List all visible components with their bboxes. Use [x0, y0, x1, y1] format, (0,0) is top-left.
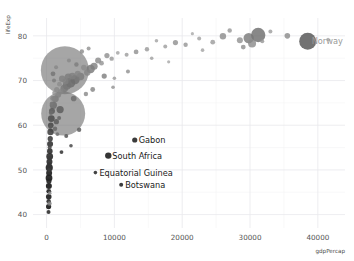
data-point [47, 156, 51, 160]
data-point [227, 28, 231, 32]
data-point [80, 49, 84, 53]
x-tick-label: 20000 [171, 233, 194, 242]
data-point [113, 77, 117, 81]
data-point [46, 183, 52, 189]
data-point [56, 132, 60, 136]
y-tick-label: 60 [18, 121, 28, 130]
data-point [53, 127, 57, 131]
data-point [50, 96, 55, 101]
data-point [119, 183, 123, 187]
y-tick-label: 70 [18, 76, 28, 85]
data-point [60, 150, 64, 154]
data-point [51, 71, 56, 76]
x-axis-title: gdpPercap [316, 248, 346, 255]
data-point [87, 46, 91, 50]
y-tick-label: 50 [18, 166, 28, 175]
data-point [111, 85, 115, 89]
data-point [48, 137, 52, 141]
data-point [69, 73, 76, 80]
data-point [57, 116, 61, 120]
data-point [105, 152, 111, 158]
y-tick-label: 80 [18, 32, 28, 41]
scatter-chart-figure: GabonSouth AfricaEquatorial GuineaBotswa… [0, 0, 354, 261]
data-point [71, 96, 77, 102]
data-point [90, 63, 97, 70]
data-point [69, 144, 73, 148]
data-point [50, 102, 54, 106]
data-point [63, 78, 69, 84]
data-point [134, 50, 139, 55]
data-point [67, 58, 71, 62]
point-annotation: South Africa [112, 151, 162, 161]
data-point [47, 201, 51, 205]
data-point [54, 65, 58, 69]
data-point [48, 125, 52, 129]
data-point [125, 53, 129, 57]
data-point [116, 51, 120, 55]
data-point [84, 69, 90, 75]
data-point [52, 79, 56, 83]
x-tick-label: 10000 [103, 233, 126, 242]
data-point [260, 39, 264, 43]
data-point [183, 43, 187, 47]
data-point [47, 210, 51, 214]
data-point [109, 56, 113, 60]
data-point [220, 33, 226, 39]
data-point [248, 39, 256, 47]
data-point [47, 162, 52, 167]
data-point [94, 171, 98, 175]
data-point [167, 60, 170, 63]
data-point [102, 73, 107, 78]
data-point [197, 37, 201, 41]
data-point [126, 70, 130, 74]
point-annotation: Norway [312, 36, 343, 46]
data-point [48, 146, 52, 150]
data-point [285, 33, 291, 39]
x-tick-label: 0 [44, 233, 49, 242]
data-point [90, 87, 95, 92]
data-point [201, 48, 205, 52]
x-tick-label: 30000 [239, 233, 262, 242]
data-point [77, 128, 81, 132]
point-annotation: Equatorial Guinea [99, 168, 172, 178]
data-point [57, 82, 62, 87]
data-point [47, 129, 53, 135]
data-point [84, 92, 88, 96]
data-point [74, 62, 78, 66]
data-point [104, 53, 109, 58]
y-axis-title: lifeExp [5, 15, 12, 34]
scatter-plot-svg: GabonSouth AfricaEquatorial GuineaBotswa… [0, 0, 354, 261]
point-annotation: Gabon [139, 135, 166, 145]
data-point [268, 29, 272, 33]
data-point [163, 45, 167, 49]
point-annotation: Botswana [125, 180, 165, 190]
data-point [210, 40, 215, 45]
data-point [57, 106, 64, 113]
data-point [48, 191, 52, 195]
data-point [191, 32, 194, 35]
data-point [64, 134, 68, 138]
data-point [237, 37, 243, 43]
data-point [132, 137, 137, 142]
data-point [48, 115, 55, 122]
data-point [46, 178, 51, 183]
data-point [46, 194, 52, 200]
data-point [75, 71, 81, 77]
data-point [150, 56, 154, 60]
data-point [47, 168, 51, 172]
data-point [241, 45, 246, 50]
data-point [49, 111, 53, 115]
data-point [99, 61, 104, 66]
y-tick-label: 40 [18, 210, 28, 219]
data-point [173, 40, 178, 45]
data-point [155, 39, 159, 43]
data-point [145, 47, 149, 51]
data-point [81, 65, 87, 71]
x-tick-label: 40000 [306, 233, 329, 242]
data-point [52, 91, 56, 95]
